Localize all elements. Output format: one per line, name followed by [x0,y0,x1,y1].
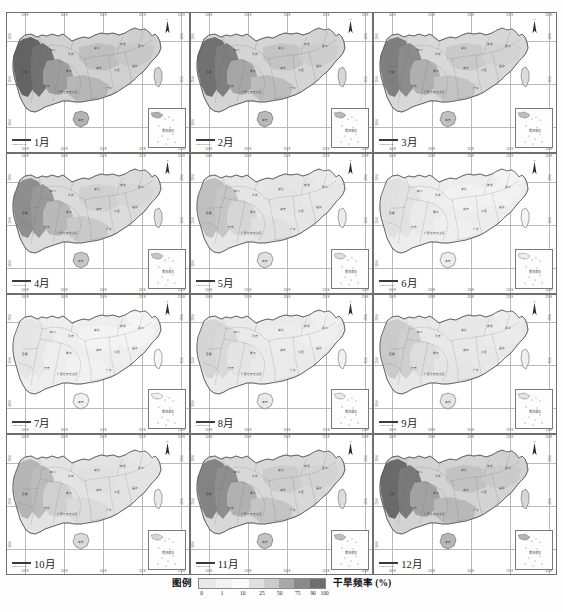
province-label: 广西壮族自治区 [240,90,261,94]
province-label: 湖南 [463,207,469,211]
map-panel-1[interactable]: 100°E100°E105°E105°E110°E110°E115°E115°E… [6,12,190,153]
taiwan-island [521,489,529,509]
lon-tick-label: 100°E [205,289,212,292]
map-panel-body: 100°E100°E105°E105°E110°E110°E115°E115°E… [7,435,189,574]
map-panel-body: 100°E100°E105°E105°E110°E110°E115°E115°E… [374,435,556,574]
province-label: 江西 [114,350,120,354]
scale-bar [12,421,31,423]
svg-text:N: N [166,441,168,442]
province-label: 浙江 [138,44,144,48]
scale-bar-label: 0 250 500 km [196,284,211,287]
province-label: 福建 [499,64,505,68]
province-label: 福建 [316,486,322,490]
province-label: 海南 [78,400,84,404]
province-label: 广西壮族自治区 [240,512,261,516]
province-label: 西藏 [206,211,212,215]
lon-tick-label: 100°E [22,289,29,292]
province-label: 安徽 [304,464,310,468]
province-label: 广东 [290,86,296,90]
province-label: 广西壮族自治区 [424,90,445,94]
north-arrow-icon: N [164,441,171,457]
south-china-sea-inset[interactable]: 南海诸岛 [148,389,186,429]
map-panel-5[interactable]: 100°E100°E105°E105°E110°E110°E115°E115°E… [190,153,374,294]
lon-tick-label: 105°E [244,570,251,573]
panel-month-label: 4月 [34,275,49,290]
north-arrow-icon: N [164,160,171,176]
province-label: 广西壮族自治区 [240,231,261,235]
map-panel-3[interactable]: 100°E100°E105°E105°E110°E110°E115°E115°E… [373,12,557,153]
province-label: 广西壮族自治区 [57,231,78,235]
panel-month-label: 2月 [218,134,233,149]
province-label: 四川 [417,49,423,52]
province-label: 浙江 [138,185,144,189]
lon-tick-label: 120°E [545,429,552,432]
province-label: 广东 [473,368,479,372]
south-china-sea-inset[interactable]: 南海诸岛 [515,389,553,429]
map-panel-4[interactable]: 100°E100°E105°E105°E110°E110°E115°E115°E… [6,153,190,294]
lon-tick-label: 115°E [506,570,513,573]
province-label: 安徽 [304,324,310,328]
province-label: 贵州 [433,210,439,214]
map-panel-body: 100°E100°E105°E105°E110°E110°E115°E115°E… [7,295,189,434]
lon-tick-label: 105°E [61,570,68,573]
province-label: 福建 [316,64,322,68]
map-panel-6[interactable]: 100°E100°E105°E105°E110°E110°E115°E115°E… [373,153,557,294]
province-label: 重庆 [435,474,441,478]
south-china-sea-inset[interactable]: 南海诸岛 [515,249,553,289]
province-label: 湖南 [96,66,102,70]
map-panel-body: 100°E100°E105°E105°E110°E110°E115°E115°E… [374,295,556,434]
map-panel-7[interactable]: 100°E100°E105°E105°E110°E110°E115°E115°E… [6,294,190,435]
map-panel-11[interactable]: 100°E100°E105°E105°E110°E110°E115°E115°E… [190,434,374,575]
province-label: 湖南 [280,488,286,492]
south-china-sea-inset[interactable]: 南海诸岛 [331,108,369,148]
province-label: 湖北 [94,187,100,191]
lat-tick-label: 25°N [365,76,368,82]
south-china-sea-inset[interactable]: 南海诸岛 [148,108,186,148]
legend-class-swatch [279,579,294,588]
map-panel-12[interactable]: 100°E100°E105°E105°E110°E110°E115°E115°E… [373,434,557,575]
map-panel-10[interactable]: 100°E100°E105°E105°E110°E110°E115°E115°E… [6,434,190,575]
scale-bar [12,562,31,564]
province-label: 广西壮族自治区 [424,512,445,516]
province-label: 四川 [50,190,56,193]
south-china-sea-inset[interactable]: 南海诸岛 [148,530,186,570]
legend-tick-label: 1 [221,590,224,596]
map-panel-8[interactable]: 100°E100°E105°E105°E110°E110°E115°E115°E… [190,294,374,435]
province-label: 安徽 [487,42,493,46]
map-panel-2[interactable]: 100°E100°E105°E105°E110°E110°E115°E115°E… [190,12,374,153]
lat-tick-label: 25°N [549,358,552,364]
south-china-sea-inset[interactable]: 南海诸岛 [331,389,369,429]
province-label: 西藏 [206,492,212,496]
province-label: 湖北 [461,468,467,472]
svg-text:南海诸岛: 南海诸岛 [162,550,174,555]
province-label: 广东 [290,508,296,512]
lon-tick-label: 110°E [467,570,474,573]
province-label: 西藏 [206,352,212,356]
lat-tick-label: 25°N [365,217,368,223]
lon-tick-label: 110°E [283,570,290,573]
province-label: 广西壮族自治区 [57,90,78,94]
south-china-sea-inset[interactable]: 南海诸岛 [515,530,553,570]
map-panel-9[interactable]: 100°E100°E105°E105°E110°E110°E115°E115°E… [373,294,557,435]
province-label: 四川 [234,49,240,52]
province-label: 广西壮族自治区 [57,372,78,376]
province-label: 安徽 [120,324,126,328]
province-label: 广西壮族自治区 [424,231,445,235]
south-china-sea-inset[interactable]: 南海诸岛 [331,249,369,289]
province-label: 浙江 [322,326,328,330]
lon-tick-label: 120°E [545,296,552,299]
province-label: 贵州 [66,210,72,214]
lat-tick-label: 20°N [181,33,184,39]
lon-tick-label: 115°E [323,429,330,432]
province-label: 江西 [298,68,304,72]
lat-tick-label: 20°N [365,174,368,180]
south-china-sea-inset[interactable]: 南海诸岛 [148,249,186,289]
taiwan-island [521,349,529,369]
lon-tick-label: 105°E [428,570,435,573]
province-label: 西藏 [22,70,28,74]
lon-tick-label: 110°E [467,289,474,292]
lon-tick-label: 120°E [545,436,552,439]
svg-text:N: N [350,19,352,20]
south-china-sea-inset[interactable]: 南海诸岛 [331,530,369,570]
south-china-sea-inset[interactable]: 南海诸岛 [515,108,553,148]
